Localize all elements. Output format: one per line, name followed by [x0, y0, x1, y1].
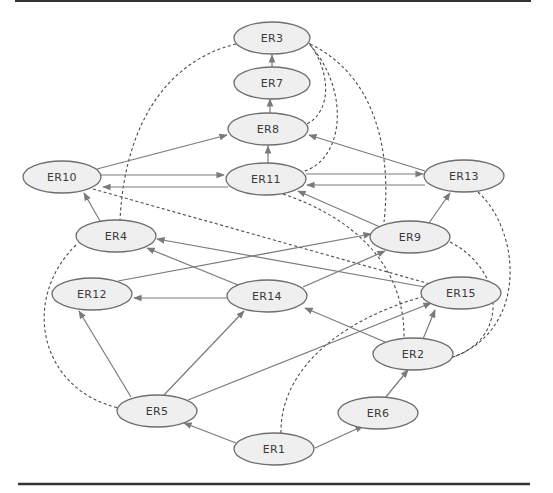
edge-er6-er2	[385, 370, 408, 398]
node-er1: ER1	[234, 433, 314, 465]
edge-er5-er14	[163, 311, 244, 396]
node-er14: ER14	[227, 280, 307, 312]
node-er13-label: ER13	[449, 170, 479, 183]
node-er11-label: ER11	[251, 173, 281, 186]
edge-er5-er12	[79, 311, 131, 397]
node-er4: ER4	[76, 220, 156, 252]
node-er6: ER6	[338, 397, 418, 429]
edge-er1-er5	[184, 423, 236, 443]
node-er8-label: ER8	[257, 123, 280, 136]
node-er12: ER12	[52, 278, 132, 310]
node-er12-label: ER12	[77, 288, 107, 301]
dashed-edge-er13-er2	[451, 192, 510, 358]
edge-er10-er8	[97, 135, 227, 169]
node-er13: ER13	[424, 160, 504, 192]
node-er11: ER11	[226, 163, 306, 195]
node-er14-label: ER14	[252, 290, 282, 303]
dashed-edge-er3-er4	[120, 44, 236, 220]
graph-diagram: ER3 ER7 ER8 ER10 ER11 ER13 ER4 ER9 ER12 …	[0, 0, 553, 493]
dashed-edge-er11-er2	[283, 194, 404, 338]
node-er1-label: ER1	[263, 443, 286, 456]
node-er2-label: ER2	[402, 348, 425, 361]
edge-er1-er6	[315, 426, 363, 448]
node-er2: ER2	[373, 338, 453, 370]
node-er4-label: ER4	[105, 230, 128, 243]
node-er7: ER7	[234, 67, 310, 99]
dashed-edge-er3-er11	[302, 45, 337, 172]
dashed-edge-er3-er9	[310, 44, 386, 222]
node-er5: ER5	[117, 395, 197, 427]
edge-er9-er11	[298, 191, 380, 227]
node-er9-label: ER9	[399, 231, 422, 244]
node-er15-label: ER15	[446, 287, 476, 300]
node-er8: ER8	[228, 113, 308, 145]
edge-er14-er9	[303, 251, 385, 287]
edge-er4-er10	[84, 193, 100, 221]
node-er15: ER15	[421, 277, 501, 309]
edge-er13-er8	[309, 135, 425, 171]
node-er7-label: ER7	[261, 77, 284, 90]
node-er3: ER3	[234, 22, 310, 54]
edge-er2-er15	[423, 310, 435, 339]
edge-er9-er13	[429, 193, 450, 223]
dashed-edge-er4-er5	[44, 245, 119, 408]
node-er6-label: ER6	[367, 407, 390, 420]
edge-er14-er4	[147, 248, 238, 285]
node-er9: ER9	[370, 221, 450, 253]
node-er10-label: ER10	[47, 171, 77, 184]
node-er5-label: ER5	[146, 405, 169, 418]
node-er3-label: ER3	[261, 32, 284, 45]
node-er10: ER10	[23, 161, 101, 193]
